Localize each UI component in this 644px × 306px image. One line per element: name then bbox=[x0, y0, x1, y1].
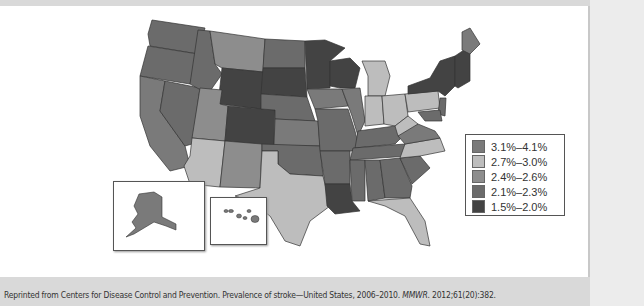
state-ak bbox=[126, 192, 176, 237]
legend-item: 2.1%–2.3% bbox=[472, 184, 558, 199]
hawaii-inset bbox=[210, 197, 267, 245]
state-ia bbox=[307, 89, 348, 109]
legend-swatch bbox=[472, 185, 485, 198]
legend-item: 1.5%–2.0% bbox=[472, 199, 558, 214]
source-caption: Reprinted from Centers for Disease Contr… bbox=[4, 290, 496, 300]
caption-suffix: . 2012;61(20):382. bbox=[428, 290, 496, 300]
state-pa bbox=[405, 91, 440, 112]
legend-swatch bbox=[472, 170, 485, 183]
state-wi bbox=[330, 58, 360, 88]
legend-label: 3.1%–4.1% bbox=[491, 141, 547, 153]
caption-journal: MMWR bbox=[402, 290, 427, 300]
state-ms bbox=[350, 160, 365, 201]
state-mi bbox=[362, 61, 390, 96]
legend-label: 1.5%–2.0% bbox=[491, 201, 547, 213]
state-ks bbox=[274, 119, 320, 146]
state-sd bbox=[261, 68, 307, 97]
legend-item: 3.1%–4.1% bbox=[472, 139, 558, 154]
state-md bbox=[418, 110, 442, 121]
state-nm bbox=[220, 141, 262, 188]
alaska-inset bbox=[113, 181, 205, 251]
legend-label: 2.7%–3.0% bbox=[491, 156, 547, 168]
map-panel: 3.1%–4.1% 2.7%–3.0% 2.4%–2.6% 2.1%–2.3% … bbox=[0, 6, 590, 277]
state-mt bbox=[210, 31, 265, 72]
legend-label: 2.4%–2.6% bbox=[491, 171, 547, 183]
legend-item: 2.7%–3.0% bbox=[472, 154, 558, 169]
state-me bbox=[462, 28, 480, 54]
state-fl bbox=[368, 198, 430, 246]
legend-swatch bbox=[472, 155, 485, 168]
state-in bbox=[365, 96, 384, 126]
state-wy bbox=[218, 68, 263, 109]
state-ny bbox=[408, 56, 455, 96]
legend-item: 2.4%–2.6% bbox=[472, 169, 558, 184]
state-co bbox=[225, 106, 275, 146]
legend-swatch bbox=[472, 200, 485, 213]
legend-swatch bbox=[472, 140, 485, 153]
caption-prefix: Reprinted from Centers for Disease Contr… bbox=[4, 290, 402, 300]
legend-label: 2.1%–2.3% bbox=[491, 186, 547, 198]
state-ar bbox=[320, 151, 350, 184]
state-az bbox=[184, 138, 225, 187]
legend: 3.1%–4.1% 2.7%–3.0% 2.4%–2.6% 2.1%–2.3% … bbox=[465, 134, 565, 216]
background-strip bbox=[590, 0, 644, 306]
state-nd bbox=[263, 39, 305, 68]
